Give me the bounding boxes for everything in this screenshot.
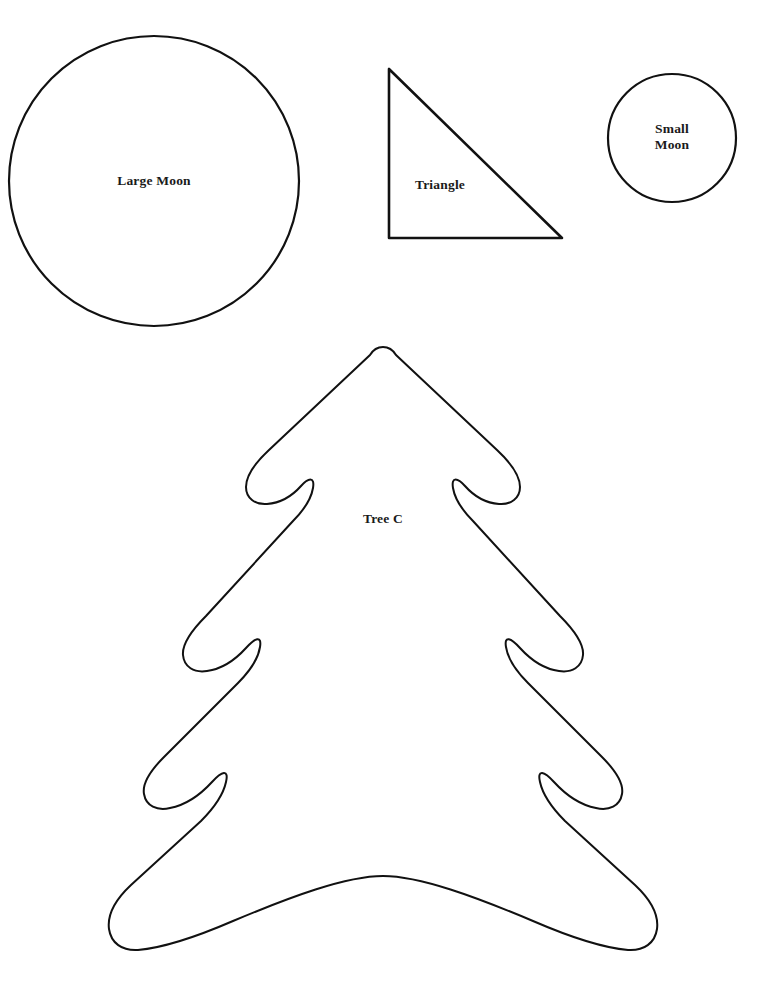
triangle-shape[interactable] (389, 69, 562, 238)
worksheet-sheet: Large Moon Triangle Small Moon Tree C (0, 0, 778, 989)
triangle-label: Triangle (415, 177, 465, 193)
large-moon-label: Large Moon (117, 173, 191, 189)
tree-c-shape[interactable] (109, 347, 658, 950)
tree-c-label: Tree C (363, 511, 403, 527)
small-moon-label: Small Moon (655, 121, 690, 153)
